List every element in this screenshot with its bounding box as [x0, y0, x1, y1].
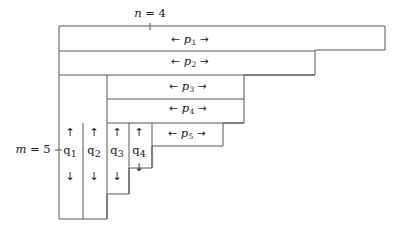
q4-label: ↑q4↓: [132, 127, 145, 173]
q1-label: ↑q1↓: [63, 127, 76, 182]
p4-label: ← p4 →: [169, 103, 206, 115]
n-label: n = 4: [134, 8, 166, 20]
p3-label: ← p3 →: [169, 81, 206, 93]
p2-label: ← p2 →: [171, 56, 208, 68]
q3-label: ↑q3↓: [110, 127, 123, 182]
q2-label: ↑q2↓: [87, 127, 100, 182]
p5-label: ← p5 →: [168, 128, 205, 140]
p1-label: ← p1 →: [171, 34, 208, 46]
m-label: m = 5: [15, 144, 50, 156]
